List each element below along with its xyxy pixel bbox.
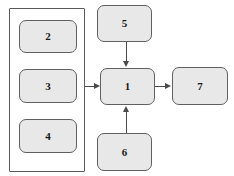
node-3-label: 3 [45,81,51,92]
node-3[interactable]: 3 [19,69,77,103]
node-4-label: 4 [45,131,51,142]
diagram-canvas: 2 3 4 5 1 6 7 [0,0,234,176]
node-7-label: 7 [197,81,203,92]
node-5-label: 5 [122,18,128,29]
node-2[interactable]: 2 [19,20,77,53]
node-4[interactable]: 4 [19,119,77,153]
arrowhead-node-6-to-node-1-icon [123,106,129,112]
node-6-label: 6 [122,147,128,158]
node-1-label: 1 [125,81,131,92]
arrowhead-node-5-to-node-1-icon [123,61,129,67]
node-7[interactable]: 7 [172,67,228,105]
edge-node-6-to-node-1 [126,112,127,133]
edge-node-5-to-node-1 [126,42,127,62]
node-1[interactable]: 1 [100,68,155,105]
node-6[interactable]: 6 [97,133,152,171]
arrowhead-node-1-to-node-7-icon [165,83,171,89]
arrowhead-group-to-node-1-icon [94,83,100,89]
node-2-label: 2 [45,31,51,42]
node-5[interactable]: 5 [97,5,152,42]
